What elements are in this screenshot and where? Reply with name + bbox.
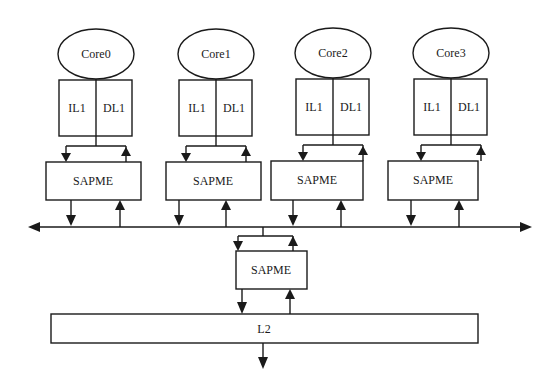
core-column-3: Core3 IL1 DL1 SAPME	[388, 28, 489, 227]
l2-label: L2	[257, 322, 270, 336]
sapme-label: SAPME	[297, 173, 337, 187]
core-label: Core2	[318, 46, 347, 60]
arrow-up-icon	[288, 236, 298, 246]
sapme-label: SAPME	[413, 173, 453, 187]
arrow-up-icon	[336, 200, 346, 210]
dl1-label: DL1	[223, 101, 245, 115]
l2-group: L2	[51, 314, 478, 369]
arrow-up-icon	[115, 200, 125, 210]
core-label: Core1	[201, 47, 230, 61]
il1-label: IL1	[68, 101, 85, 115]
arrow-up-icon	[454, 200, 464, 210]
il1-label: IL1	[423, 100, 440, 114]
sapme-label: SAPME	[73, 174, 113, 188]
shared-sapme-group: SAPME	[233, 227, 307, 314]
arrow-right-icon	[520, 222, 532, 232]
core-label: Core0	[81, 47, 110, 61]
arrow-up-icon	[285, 289, 295, 299]
arrow-up-icon	[476, 146, 486, 155]
arrow-down-icon	[66, 215, 76, 226]
arrow-down-icon	[298, 152, 308, 161]
il1-label: IL1	[188, 101, 205, 115]
arrow-down-icon	[174, 215, 184, 226]
arrow-down-icon	[237, 302, 247, 314]
arrow-down-icon	[406, 215, 416, 226]
core-column-1: Core1 IL1 DL1 SAPME	[166, 29, 261, 227]
arrow-up-icon	[221, 200, 231, 210]
arrow-up-icon	[241, 147, 251, 156]
sapme-label: SAPME	[193, 174, 233, 188]
arrow-down-icon	[181, 153, 191, 162]
il1-label: IL1	[305, 100, 322, 114]
core-label: Core3	[436, 46, 465, 60]
arrow-down-icon	[61, 153, 71, 162]
arrow-up-icon	[358, 146, 368, 155]
shared-bus	[28, 222, 532, 232]
arrow-down-icon	[416, 152, 426, 161]
arrow-up-icon	[121, 147, 131, 156]
arrow-down-icon	[288, 215, 298, 226]
core-column-2: Core2 IL1 DL1 SAPME	[271, 28, 371, 227]
memory-hierarchy-diagram: Core0 IL1 DL1 SAPME Core1 IL1 DL1 SAPME	[0, 0, 558, 386]
arrow-down-icon	[258, 357, 268, 369]
dl1-label: DL1	[458, 100, 480, 114]
core-column-0: Core0 IL1 DL1 SAPME	[46, 29, 141, 227]
dl1-label: DL1	[340, 100, 362, 114]
dl1-label: DL1	[103, 101, 125, 115]
arrow-left-icon	[28, 222, 40, 232]
shared-sapme-label: SAPME	[251, 263, 291, 277]
arrow-down-icon	[233, 241, 243, 251]
